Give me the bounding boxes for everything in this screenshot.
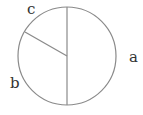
slice-label-b: b [10, 76, 20, 91]
slice-label-c: c [27, 2, 35, 17]
pie-diagram: c b a [0, 0, 143, 115]
slice-label-a: a [129, 50, 138, 65]
pie-graphic [0, 0, 143, 115]
